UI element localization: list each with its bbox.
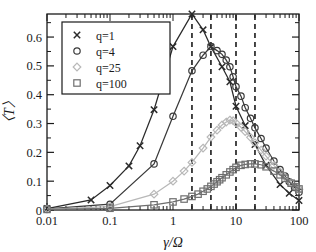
- y-tick-label: 0.1: [26, 175, 42, 189]
- y-tick-label: 0.6: [26, 31, 42, 45]
- reference-vlines: [192, 15, 255, 209]
- chart-canvas: 0.010.111010000.10.20.30.40.50.6γ/Ω〈T〉q=…: [0, 0, 316, 252]
- legend-label-0: q=1: [96, 29, 115, 43]
- x-axis-label: γ/Ω: [163, 235, 183, 250]
- marker-x: [286, 190, 292, 196]
- legend-label-2: q=25: [96, 61, 121, 75]
- marker-x: [107, 182, 113, 188]
- x-tick-label: 1: [170, 214, 176, 228]
- series-q-100: [44, 161, 302, 213]
- marker-x: [170, 43, 176, 49]
- x-tick-label: 0.1: [102, 214, 118, 228]
- marker-x: [137, 143, 143, 149]
- y-tick-label: 0.4: [26, 88, 42, 102]
- y-axis-label: 〈T〉: [2, 94, 17, 130]
- x-tick-label: 100: [290, 214, 309, 228]
- figure-container: 0.010.111010000.10.20.30.40.50.6γ/Ω〈T〉q=…: [0, 0, 316, 252]
- legend-label-3: q=100: [96, 77, 127, 91]
- x-tick-labels: 0.010.1110100: [36, 214, 308, 228]
- marker-x: [219, 64, 225, 70]
- marker-x: [151, 106, 157, 112]
- y-tick-label: 0.3: [26, 117, 42, 131]
- x-tick-label: 10: [230, 214, 243, 228]
- y-tick-label: 0: [36, 204, 42, 218]
- series-line: [47, 164, 299, 210]
- marker-x: [200, 27, 206, 33]
- marker-x: [277, 181, 283, 187]
- y-tick-label: 0.5: [26, 59, 42, 73]
- y-tick-label: 0.2: [26, 146, 42, 160]
- legend: q=1q=4q=25q=100: [62, 22, 170, 94]
- marker-x: [126, 163, 132, 169]
- legend-label-1: q=4: [96, 45, 115, 59]
